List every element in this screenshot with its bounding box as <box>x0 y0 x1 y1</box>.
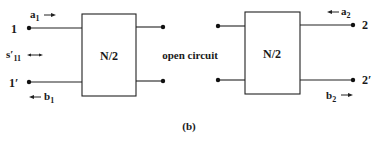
a2-sub: 2 <box>347 11 351 20</box>
terminal-1prime-label: 1′ <box>9 76 18 90</box>
terminal-2prime-label: 2′ <box>362 73 371 87</box>
right-network-label: N/2 <box>263 47 281 61</box>
svg-text:a1: a1 <box>30 8 40 23</box>
figure-caption: (b) <box>182 120 196 133</box>
arrowhead-icon <box>29 95 34 99</box>
svg-text:b2: b2 <box>326 89 336 104</box>
wave-b1: b1 <box>29 90 54 105</box>
b2-sub: 2 <box>332 95 336 104</box>
left-net-out-bottom-dot <box>161 79 165 83</box>
param-s11prime: s′11 <box>6 48 43 63</box>
arrowhead-icon <box>348 93 353 97</box>
s11-symbol: s′ <box>6 48 13 60</box>
terminal-1prime-dot <box>27 80 31 84</box>
diagram-canvas: N/2 1 1′ a1 --> s′11 b1 <box>0 0 380 142</box>
left-net-out-top-dot <box>161 25 165 29</box>
terminal-1-label: 1 <box>11 22 17 36</box>
right-net-in-bottom-dot <box>216 78 220 82</box>
arrowhead-icon <box>51 13 56 17</box>
svg-text:b1: b1 <box>44 90 54 105</box>
right-net-in-top-dot <box>216 24 220 28</box>
terminal-2-dot <box>351 23 355 27</box>
arrowhead-icon <box>327 10 332 14</box>
wave-a1: a1 <box>30 8 56 23</box>
left-network: N/2 1 1′ a1 --> s′11 b1 <box>6 8 165 105</box>
terminal-2-label: 2 <box>362 18 368 32</box>
s11-sub: 11 <box>13 54 21 63</box>
wave-a2: a2 <box>327 5 351 20</box>
wave-b2: b2 <box>326 89 353 104</box>
svg-text:a2: a2 <box>341 5 351 20</box>
terminal-1-dot <box>27 26 31 30</box>
two-port-halves-diagram: N/2 1 1′ a1 --> s′11 b1 <box>0 0 380 142</box>
right-network: N/2 2 2′ a2 b2 <box>216 5 372 104</box>
left-network-label: N/2 <box>100 49 118 63</box>
terminal-2prime-dot <box>351 78 355 82</box>
svg-text:s′11: s′11 <box>6 48 21 63</box>
open-circuit-label: open circuit <box>162 49 218 61</box>
b1-sub: 1 <box>50 96 54 105</box>
a1-sub: 1 <box>36 14 40 23</box>
